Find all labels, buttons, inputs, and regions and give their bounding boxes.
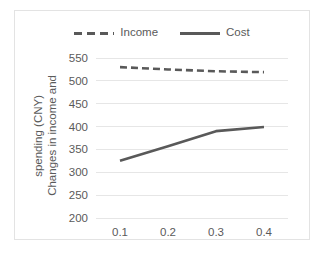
chart-container: Income Cost spending (CNY) Changes in in… — [0, 0, 326, 255]
series-line-cost — [120, 127, 264, 161]
y-axis-tick-label: 450 — [69, 98, 88, 110]
y-axis-tick-label: 300 — [69, 166, 88, 178]
y-axis-tick-label: 200 — [69, 212, 88, 224]
y-axis-tick-label: 350 — [69, 143, 88, 155]
x-axis-tick-label: 0.3 — [208, 226, 224, 238]
plot-area: 200250300350400450500550 0.10.20.30.4 — [0, 0, 326, 255]
x-axis-tick-label: 0.1 — [112, 226, 128, 238]
y-axis-tick-label: 400 — [69, 121, 88, 133]
y-axis-tick-label: 250 — [69, 189, 88, 201]
series-line-income — [120, 67, 264, 72]
y-axis-tick-labels: 200250300350400450500550 — [69, 52, 88, 224]
x-axis-tick-label: 0.2 — [160, 226, 176, 238]
y-axis-tick-label: 500 — [69, 75, 88, 87]
x-axis-tick-label: 0.4 — [256, 226, 273, 238]
x-axis-tick-labels: 0.10.20.30.4 — [112, 226, 273, 238]
y-axis-tick-label: 550 — [69, 52, 88, 64]
